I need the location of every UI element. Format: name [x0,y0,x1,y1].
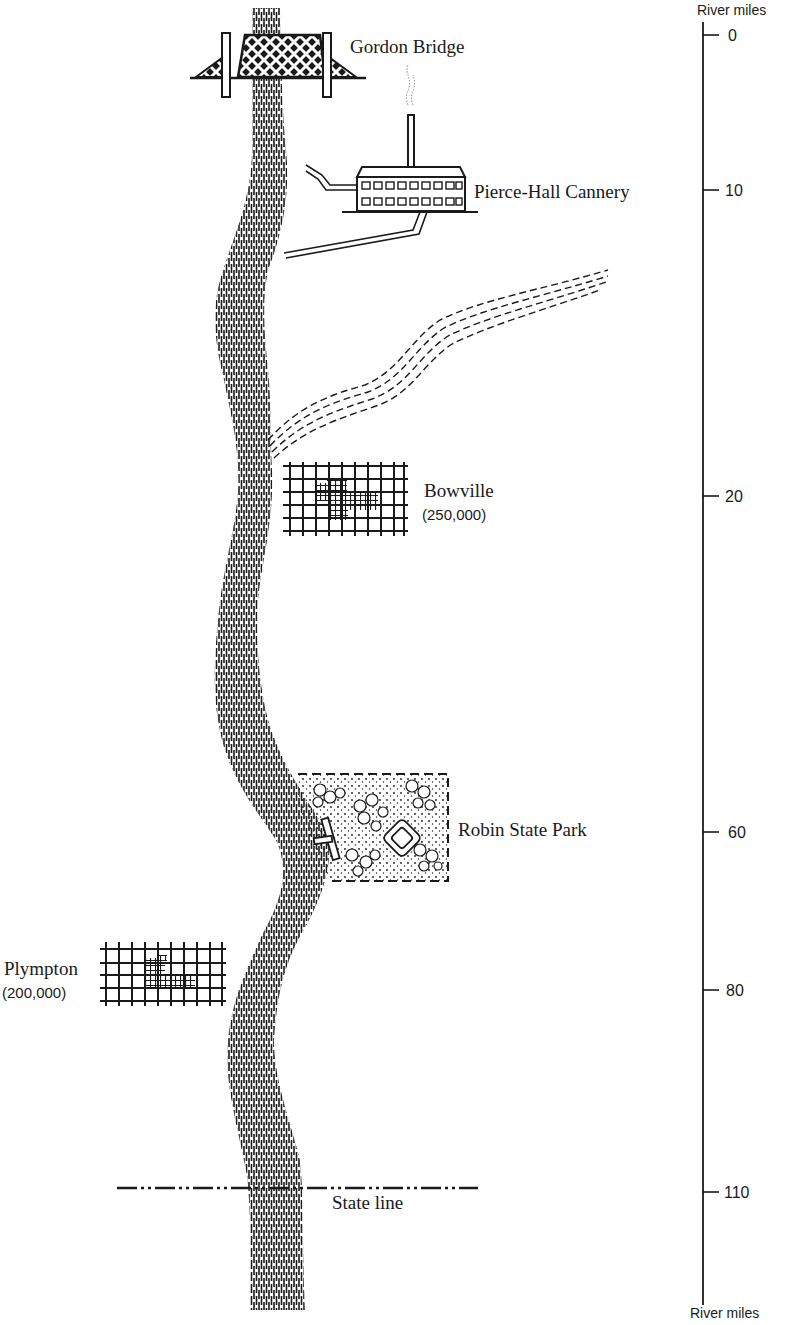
bowville: Bowville (250,000) [283,462,494,536]
river-miles-scale: River miles 0 10 20 60 80 110 River mile… [690,2,766,1321]
state-line-label: State line [332,1192,403,1213]
city-grid-icon [100,942,226,1006]
scale-tick: 80 [703,982,744,999]
scale-title-bottom: River miles [690,1305,759,1321]
plympton-population: (200,000) [2,984,66,1001]
scale-tick: 20 [703,488,743,505]
tick-label: 0 [728,27,737,44]
tributary-stream [268,270,608,458]
bowville-population: (250,000) [422,506,486,523]
scale-tick: 60 [703,824,746,841]
river-map: Gordon Bridge Pierce-Hall Cannery [0,0,786,1325]
city-grid-icon [283,462,408,536]
scale-tick: 110 [703,1184,750,1201]
tick-label: 60 [728,824,746,841]
cannery-label: Pierce-Hall Cannery [474,181,630,202]
gordon-bridge: Gordon Bridge [190,33,465,97]
tick-label: 80 [726,982,744,999]
bowville-label: Bowville [424,480,494,501]
scale-tick: 10 [703,182,743,199]
pierce-hall-cannery: Pierce-Hall Cannery [284,65,630,258]
robin-state-park: Robin State Park [298,774,587,881]
robin-park-label: Robin State Park [458,819,587,840]
factory-icon [284,65,478,258]
tick-label: 20 [725,488,743,505]
scale-title-top: River miles [697,2,766,18]
tick-label: 10 [725,182,743,199]
plympton-label: Plympton [4,958,78,979]
gordon-bridge-label: Gordon Bridge [350,36,465,57]
river [215,8,330,1310]
scale-tick: 0 [703,27,737,44]
plympton: Plympton (200,000) [2,942,226,1006]
tick-label: 110 [724,1184,750,1201]
